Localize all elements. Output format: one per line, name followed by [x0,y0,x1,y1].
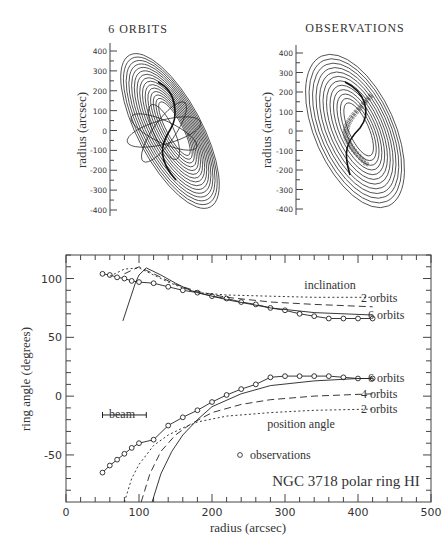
data-point [115,457,120,462]
data-point [239,387,244,392]
data-point [137,280,142,285]
svg-text:400: 400 [93,47,108,56]
data-point [166,423,171,428]
data-point [297,311,302,316]
svg-text:200: 200 [93,87,108,96]
data-point [253,382,258,387]
data-point [122,276,127,281]
y-axis-label: ring angle (degrees) [18,327,33,431]
annotation-inclination: inclination [304,278,355,292]
svg-text:0: 0 [102,127,107,136]
svg-text:300: 300 [93,67,108,76]
data-point [166,284,171,289]
data-point [100,470,105,475]
svg-text:-50: -50 [44,449,62,462]
data-point [129,445,134,450]
legend-2-orbits-inclination: 2 orbits [361,291,398,305]
svg-text:-300: -300 [90,186,107,195]
data-point [107,273,112,278]
data-point [115,275,120,280]
data-point [283,374,288,379]
data-point [100,271,105,276]
svg-text:-200: -200 [276,166,293,175]
svg-text:100: 100 [129,506,150,519]
y-axis-label-left: radius (arcsec) [74,92,89,168]
svg-text:300: 300 [275,506,296,519]
data-point [326,374,331,379]
svg-text:50: 50 [48,331,62,344]
data-point [122,451,127,456]
galaxy-label: NGC 3718 polar ring HI [272,473,419,489]
svg-text:400: 400 [348,506,369,519]
annotation-position-angle: position angle [267,417,335,431]
legend-4-orbits-pa: 4 orbits [361,387,398,401]
data-point [195,408,200,413]
y-axis-right: 4003002001000-100-200-300-400 [276,45,303,215]
svg-text:-400: -400 [276,205,293,214]
data-series [100,267,375,502]
svg-text:-100: -100 [90,146,107,155]
panel-title-six-orbits: 6 ORBITS [108,22,168,36]
data-point [283,308,288,313]
panel-observations: OBSERVATIONS radius (arcsec) 40030020010… [259,21,425,222]
legend-6-orbits-inclination: 6 orbits [368,308,405,322]
svg-text:300: 300 [279,69,294,78]
data-point [297,374,302,379]
svg-text:-200: -200 [90,166,107,175]
panel-title-observations: OBSERVATIONS [305,21,405,35]
svg-text:0: 0 [63,506,70,519]
svg-text:400: 400 [279,49,294,58]
svg-text:-400: -400 [90,206,107,215]
panel-six-orbits: 6 ORBITS radius (arcsec) 4003002001000-1… [74,22,239,222]
svg-text:-300: -300 [276,186,293,195]
data-point [151,437,156,442]
observations-legend-marker [238,453,243,458]
y-axis-left: 4003002001000-100-200-300-400 [90,43,117,216]
data-point [341,316,346,321]
data-point [180,288,185,293]
svg-text:0: 0 [288,127,293,136]
data-point [268,375,273,380]
legend-observations: observations [250,448,311,462]
legend-2-orbits-pa: 2 orbits [361,402,398,416]
svg-text:0: 0 [55,390,62,403]
data-point [356,316,361,321]
data-point [180,415,185,420]
data-point [129,278,134,283]
svg-text:100: 100 [279,108,294,117]
series-inclination-6-orbits [123,268,373,321]
data-point [224,393,229,398]
data-point [312,374,317,379]
x-axis-label: radius (arcsec) [210,520,286,535]
data-point [312,314,317,319]
svg-text:500: 500 [421,506,442,519]
svg-text:100: 100 [93,107,108,116]
svg-text:200: 200 [279,88,294,97]
svg-text:100: 100 [41,273,62,286]
data-point [151,281,156,286]
annotation-beam: beam [109,407,136,421]
panel-ring-angle: 0100200300400500100500-50 ring angle (de… [18,255,442,535]
data-point [107,463,112,468]
legend-6-orbits-pa: 6 orbits [368,371,405,385]
svg-text:-100: -100 [276,147,293,156]
data-point [137,441,142,446]
svg-text:200: 200 [202,506,223,519]
orbit-rings-model [101,40,238,222]
data-point [326,316,331,321]
orbit-rings-observed [285,40,425,222]
y-axis-label-right: radius (arcsec) [259,92,274,168]
figure: 6 ORBITS radius (arcsec) 4003002001000-1… [0,0,446,546]
data-point [210,400,215,405]
